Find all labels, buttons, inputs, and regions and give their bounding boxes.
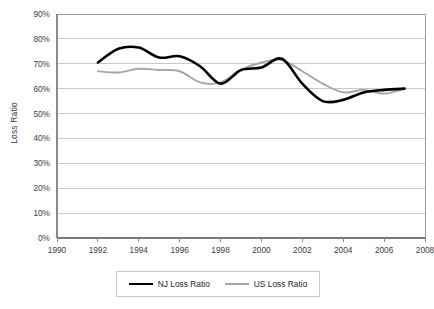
data-series	[98, 47, 405, 103]
axis-lines	[57, 14, 425, 238]
legend-item-us: US Loss Ratio	[225, 279, 308, 289]
legend-line-swatch-us-icon	[225, 283, 249, 285]
gridlines	[57, 14, 425, 238]
legend-line-swatch-nj-icon	[129, 283, 153, 286]
series-line-nj	[98, 47, 405, 103]
legend-label-us: US Loss Ratio	[254, 279, 308, 289]
legend-label-nj: NJ Loss Ratio	[158, 279, 210, 289]
legend-item-nj: NJ Loss Ratio	[129, 279, 210, 289]
chart-legend: NJ Loss Ratio US Loss Ratio	[116, 271, 320, 297]
